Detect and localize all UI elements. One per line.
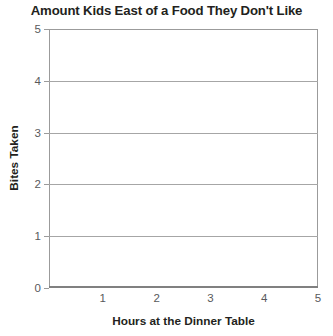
x-tick-label-1: 1	[100, 292, 106, 304]
gridline-y-4	[49, 81, 318, 82]
y-tick-mark-0	[44, 288, 49, 289]
gridline-y-2	[49, 184, 318, 185]
y-axis-title: Bites Taken	[7, 125, 21, 190]
x-tick-label-5: 5	[315, 292, 321, 304]
y-tick-label-4: 4	[35, 75, 41, 87]
y-tick-label-1: 1	[35, 230, 41, 242]
gridline-y-1	[49, 236, 318, 237]
plot-frame-top	[49, 29, 318, 30]
x-tick-label-3: 3	[207, 292, 213, 304]
y-tick-mark-4	[44, 81, 49, 82]
x-tick-label-2: 2	[153, 292, 159, 304]
y-tick-mark-3	[44, 133, 49, 134]
gridline-y-3	[49, 133, 318, 134]
y-tick-mark-1	[44, 236, 49, 237]
y-tick-mark-2	[44, 184, 49, 185]
plot-area: 5 4 3 2 1 0 1 2 3 4 5	[49, 29, 318, 288]
x-axis-title: Hours at the Dinner Table	[49, 314, 318, 328]
chart-title: Amount Kids East of a Food They Don't Li…	[0, 3, 333, 18]
y-tick-mark-5	[44, 29, 49, 30]
chart-figure: Amount Kids East of a Food They Don't Li…	[0, 0, 333, 336]
y-tick-label-2: 2	[35, 178, 41, 190]
x-tick-label-4: 4	[261, 292, 267, 304]
y-tick-label-3: 3	[35, 127, 41, 139]
y-tick-label-5: 5	[35, 23, 41, 35]
x-axis-line	[49, 286, 318, 288]
plot-frame-right	[317, 29, 318, 288]
y-axis-line	[49, 29, 50, 288]
y-tick-label-0: 0	[35, 282, 41, 294]
